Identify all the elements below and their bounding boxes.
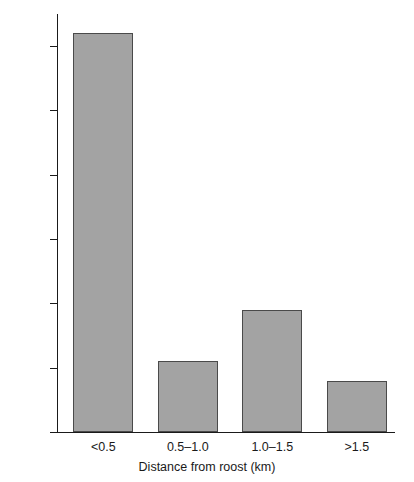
x-axis-title: Distance from roost (km) (0, 460, 414, 474)
bar (327, 381, 387, 432)
bar (73, 33, 133, 432)
y-tick-mark (50, 175, 57, 176)
y-tick-mark (50, 368, 57, 369)
x-axis-line (57, 432, 395, 433)
y-tick-mark (50, 239, 57, 240)
bar (242, 310, 302, 432)
y-tick-mark (50, 432, 57, 433)
bar (158, 361, 218, 432)
y-tick-mark (50, 46, 57, 47)
bars-layer (57, 14, 395, 432)
y-tick-mark (50, 110, 57, 111)
x-tick-label: >1.5 (307, 440, 407, 454)
y-tick-mark (50, 303, 57, 304)
bar-chart-figure: 0102030405060 <0.50.5–1.01.0–1.5>1.5 Dis… (0, 0, 414, 482)
